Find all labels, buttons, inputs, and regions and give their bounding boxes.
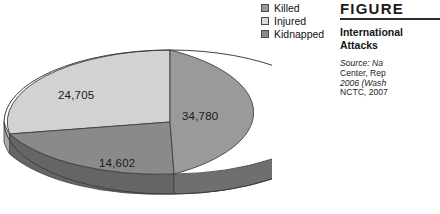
legend-label-kidnapped: Kidnapped (274, 28, 324, 40)
pie-chart-svg (0, 26, 272, 214)
figure-rule (340, 18, 440, 20)
legend-label-injured: Injured (274, 15, 306, 27)
legend-item-kidnapped: Kidnapped (261, 28, 324, 40)
figure-source-line-4: NCTC, 2007 (340, 88, 440, 98)
pie-value-injured: 24,705 (58, 89, 94, 101)
figure-title-line-1: International (340, 26, 440, 39)
figure-source: Source: Na Center, Rep 2006 (Wash NCTC, … (340, 59, 440, 98)
legend-swatch-kidnapped (261, 30, 269, 38)
legend-item-injured: Injured (261, 15, 324, 27)
legend-swatch-injured (261, 17, 269, 25)
legend-item-killed: Killed (261, 2, 324, 14)
pie-value-killed: 34,780 (182, 110, 218, 122)
pie-value-kidnapped: 14,602 (99, 157, 135, 169)
legend-label-killed: Killed (274, 2, 300, 14)
chart-legend: Killed Injured Kidnapped (261, 2, 324, 40)
pie-chart: 34,780 24,705 14,602 (0, 26, 272, 214)
legend-swatch-killed (261, 4, 269, 12)
figure-title-line-2: Attacks (340, 39, 440, 52)
figure-caption-block: FIGURE International Attacks Source: Na … (340, 0, 440, 214)
figure-word: FIGURE (340, 0, 440, 17)
